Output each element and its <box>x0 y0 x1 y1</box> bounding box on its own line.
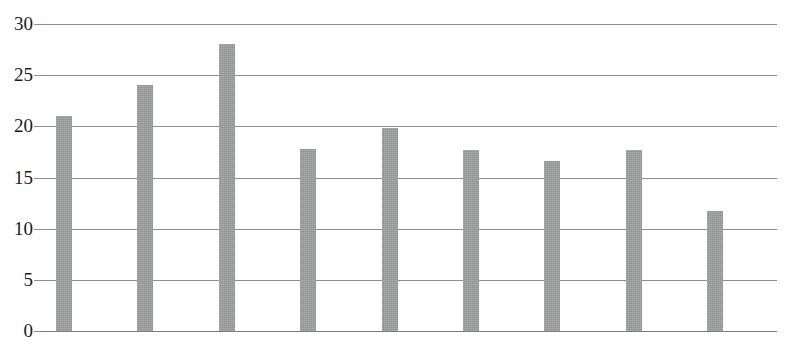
bar <box>626 150 642 331</box>
y-axis-label: 0 <box>1 321 33 340</box>
bar <box>463 150 479 331</box>
y-axis-label: 5 <box>1 270 33 289</box>
y-axis-labels: 302520151050 <box>0 0 33 350</box>
plot-area <box>40 24 777 331</box>
y-axis-tick <box>34 331 41 332</box>
bar <box>56 116 72 331</box>
x-axis-baseline <box>40 331 777 332</box>
y-axis-tick <box>34 229 41 230</box>
bar <box>382 128 398 331</box>
bar <box>707 211 723 331</box>
y-axis-tick <box>34 178 41 179</box>
y-axis-tick <box>34 280 41 281</box>
bar <box>219 44 235 331</box>
gridline <box>40 75 777 76</box>
y-axis-label: 15 <box>1 168 33 187</box>
y-axis-label: 25 <box>1 65 33 84</box>
y-axis-label: 30 <box>1 14 33 33</box>
bar <box>544 161 560 331</box>
bar <box>137 85 153 331</box>
y-axis-tick <box>34 126 41 127</box>
bar <box>300 149 316 331</box>
y-axis-tick <box>34 24 41 25</box>
y-axis-label: 10 <box>1 219 33 238</box>
bar-chart: 302520151050 <box>0 0 789 350</box>
gridline <box>40 24 777 25</box>
y-axis-tick <box>34 75 41 76</box>
y-axis-label: 20 <box>1 116 33 135</box>
